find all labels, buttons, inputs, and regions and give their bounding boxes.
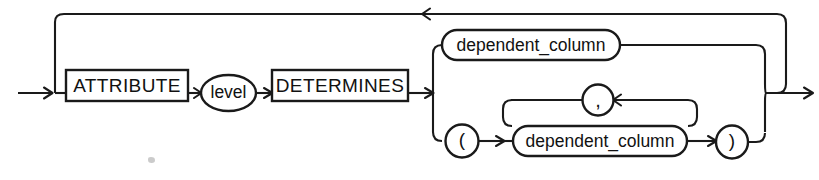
close-paren-label: ) — [729, 130, 735, 151]
determines-keyword-node[interactable]: DETERMINES — [272, 70, 408, 101]
open-paren-label: ( — [459, 129, 466, 150]
attribute-keyword-node[interactable]: ATTRIBUTE — [66, 70, 188, 101]
branch-parenthesized-list: ( dependent_column ) — [446, 85, 766, 159]
dependent-column-single-label: dependent_column — [457, 35, 606, 56]
syntax-diagram-canvas: dependent_column ( dependent_column — [0, 0, 819, 180]
comma-separator-label: , — [595, 89, 601, 111]
branch-single-dependent-column: dependent_column — [442, 30, 765, 60]
dependent-column-list-label: dependent_column — [526, 131, 675, 152]
attribute-keyword-label: ATTRIBUTE — [73, 75, 181, 96]
level-nonterminal-node[interactable]: level — [201, 75, 256, 111]
entry-arrow-icon — [18, 88, 53, 99]
syntax-diagram: dependent_column ( dependent_column — [0, 0, 819, 180]
scan-artifact-speck — [148, 157, 155, 163]
determines-keyword-label: DETERMINES — [276, 75, 405, 96]
level-nonterminal-label: level — [211, 82, 247, 102]
